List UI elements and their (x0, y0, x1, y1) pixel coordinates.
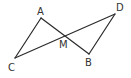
label-b: B (85, 57, 92, 68)
label-d: D (116, 2, 124, 13)
label-m: M (59, 39, 68, 50)
label-c: C (8, 62, 15, 73)
label-a: A (37, 6, 44, 17)
geometry-diagram: A B C D M (0, 0, 131, 78)
